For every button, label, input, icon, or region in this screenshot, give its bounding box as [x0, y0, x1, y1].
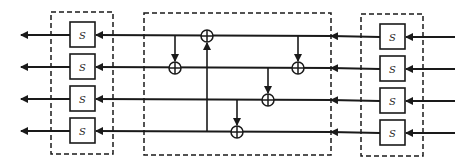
- svg-text:S: S: [389, 64, 396, 75]
- left-sbox: S: [70, 118, 95, 143]
- left-sbox: S: [70, 86, 95, 111]
- xor-icon: [169, 62, 181, 74]
- left-sbox: S: [70, 54, 95, 79]
- xor-icon: [292, 62, 304, 74]
- svg-text:S: S: [389, 96, 396, 107]
- svg-text:S: S: [389, 32, 396, 43]
- right-sbox: S: [380, 120, 405, 145]
- xor-feed-lines: [175, 36, 298, 132]
- svg-text:S: S: [79, 30, 86, 41]
- svg-text:S: S: [389, 128, 396, 139]
- sbox-mixing-diagram: S S S S S S S S: [0, 0, 474, 167]
- right-sbox: S: [380, 88, 405, 113]
- output-lines: [21, 35, 70, 131]
- svg-text:S: S: [79, 94, 86, 105]
- right-sbox: S: [380, 56, 405, 81]
- left-sbox: S: [70, 22, 95, 47]
- svg-text:S: S: [79, 126, 86, 137]
- right-to-mix-lines: [331, 36, 380, 133]
- xor-icon: [262, 94, 274, 106]
- input-lines: [406, 37, 455, 133]
- xor-icon: [201, 30, 213, 42]
- xor-icon: [231, 126, 243, 138]
- svg-text:S: S: [79, 62, 86, 73]
- right-sbox: S: [380, 24, 405, 49]
- mix-to-left-lines: [96, 35, 331, 132]
